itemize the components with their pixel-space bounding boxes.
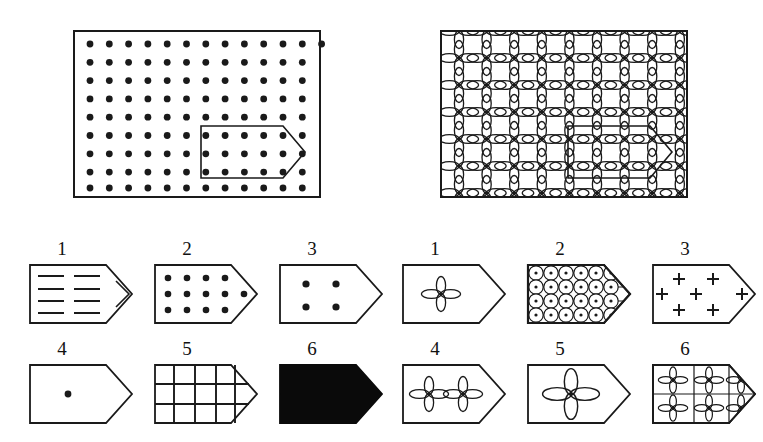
right-option-3-label: 3 [673,238,697,260]
option-two-flowers[interactable] [401,363,509,425]
option-one-flower[interactable] [401,263,509,325]
option-dashes[interactable] [28,263,136,325]
left-option-4-label: 4 [50,338,74,360]
option-plus-signs[interactable] [651,263,759,325]
right-option-2-label: 2 [548,238,572,260]
option-six-flowers[interactable] [651,363,759,425]
left-option-2-label: 2 [175,238,199,260]
right-option-6-label: 6 [673,338,697,360]
option-large-flower[interactable] [526,363,634,425]
right-option-5-label: 5 [548,338,572,360]
dot-grid-panel [73,30,321,198]
option-circle-lattice[interactable] [526,263,634,325]
option-solid[interactable] [278,363,386,425]
flower-grid-panel [440,30,688,198]
option-dots-dense[interactable] [153,263,261,325]
right-option-4-label: 4 [423,338,447,360]
left-option-1-label: 1 [50,238,74,260]
left-option-3-label: 3 [300,238,324,260]
center-dot [65,391,72,398]
right-option-1-label: 1 [423,238,447,260]
option-single-dot[interactable] [28,363,136,425]
option-lattice[interactable] [153,363,261,425]
left-option-5-label: 5 [175,338,199,360]
left-option-6-label: 6 [300,338,324,360]
option-four-dots[interactable] [278,263,386,325]
